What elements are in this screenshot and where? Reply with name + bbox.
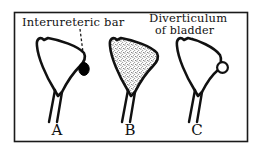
panel-c-lesion xyxy=(217,62,228,73)
panel-a: A xyxy=(37,38,89,139)
panel-b-neck-left xyxy=(122,90,128,122)
label-interureteric-bar: Interureteric bar xyxy=(22,15,125,29)
figure-root: Interureteric bar Diverticulum of bladde… xyxy=(0,0,262,153)
panel-b: B xyxy=(110,38,158,139)
bladder-diagram-svg: Interureteric bar Diverticulum of bladde… xyxy=(0,0,262,153)
label-diverticulum-line2: of bladder xyxy=(155,24,215,37)
panel-a-neck-left xyxy=(49,90,55,122)
panel-c-neck-left xyxy=(189,90,195,122)
panel-a-lesion xyxy=(79,63,89,76)
panel-b-bladder-outline xyxy=(110,38,158,96)
label-diverticulum-line1: Diverticulum xyxy=(149,11,227,25)
panel-c: C xyxy=(177,38,228,139)
panel-letter-c: C xyxy=(191,121,202,139)
panel-a-bladder-outline xyxy=(37,38,85,96)
panel-letter-b: B xyxy=(124,121,135,139)
panel-letter-a: A xyxy=(51,121,63,139)
panel-c-bladder-outline xyxy=(177,38,221,96)
